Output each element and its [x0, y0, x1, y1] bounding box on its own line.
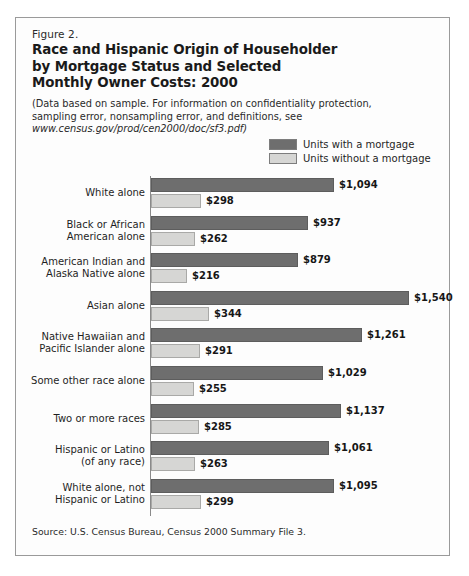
- chart-bar: [151, 178, 334, 192]
- chart-bar: [151, 328, 362, 342]
- figure-container: Figure 2. Race and Hispanic Origin of Ho…: [15, 17, 450, 556]
- chart-bar: [151, 291, 409, 305]
- chart-bar-value-label: $1,261: [367, 328, 406, 342]
- figure-number: Figure 2.: [32, 28, 78, 40]
- chart-bar: [151, 194, 201, 208]
- chart-bar-value-label: $1,095: [339, 479, 378, 493]
- chart-category-label: Black or AfricanAmerican alone: [0, 219, 145, 243]
- chart-category-label: Hispanic or Latino(of any race): [0, 444, 145, 468]
- chart-bar-value-label: $1,137: [346, 404, 385, 418]
- chart-bar-value-label: $216: [192, 269, 220, 283]
- chart-bar-value-label: $344: [214, 307, 242, 321]
- chart-bar: [151, 216, 308, 230]
- chart-category-group: Native Hawaiian andPacific Islander alon…: [16, 328, 449, 366]
- figure-title: Race and Hispanic Origin of Householder …: [32, 42, 432, 92]
- chart-bar: [151, 441, 329, 455]
- chart-category-group: Black or AfricanAmerican alone$937$262: [16, 216, 449, 254]
- chart-bar: [151, 457, 195, 471]
- chart-category-label: White alone: [0, 187, 145, 199]
- figure-note-line-2: sampling error, nonsampling error, and d…: [32, 111, 302, 122]
- legend-swatch-icon: [269, 153, 297, 164]
- chart-category-group: White alone, notHispanic or Latino$1,095…: [16, 479, 449, 517]
- chart-bar-value-label: $298: [206, 194, 234, 208]
- chart-bar-value-label: $1,094: [339, 178, 378, 192]
- legend-item-label: Units with a mortgage: [303, 139, 414, 150]
- figure-note: (Data based on sample. For information o…: [32, 98, 372, 136]
- chart-bar-value-label: $879: [303, 253, 331, 267]
- chart-bar: [151, 382, 194, 396]
- figure-note-url: www.census.gov/prod/cen2000/doc/sf3.pdf): [32, 123, 247, 134]
- chart-bar: [151, 269, 187, 283]
- chart-category-group: White alone$1,094$298: [16, 178, 449, 216]
- chart-bar: [151, 307, 209, 321]
- legend-swatch-icon: [269, 139, 297, 150]
- chart-category-group: Two or more races$1,137$285: [16, 404, 449, 442]
- figure-title-line-2: by Mortgage Status and Selected: [32, 59, 281, 74]
- chart-bar: [151, 232, 195, 246]
- figure-source: Source: U.S. Census Bureau, Census 2000 …: [32, 526, 306, 537]
- chart-legend: Units with a mortgageUnits without a mor…: [269, 138, 449, 166]
- chart-bar: [151, 420, 199, 434]
- chart-bar-value-label: $1,540: [414, 291, 453, 305]
- chart-bar-value-label: $1,029: [328, 366, 367, 380]
- figure-title-line-3: Monthly Owner Costs: 2000: [32, 75, 238, 90]
- chart-category-group: Some other race alone$1,029$255: [16, 366, 449, 404]
- chart-bar-value-label: $255: [199, 382, 227, 396]
- chart-category-group: American Indian andAlaska Native alone$8…: [16, 253, 449, 291]
- chart-category-group: Asian alone$1,540$344: [16, 291, 449, 329]
- chart-bar-value-label: $263: [200, 457, 228, 471]
- chart-bar-value-label: $285: [204, 420, 232, 434]
- chart-category-label: Two or more races: [0, 413, 145, 425]
- chart-category-label: Asian alone: [0, 300, 145, 312]
- legend-item-label: Units without a mortgage: [303, 153, 431, 164]
- chart-bar: [151, 479, 334, 493]
- figure-note-line-1: (Data based on sample. For information o…: [32, 98, 372, 109]
- chart-bar-value-label: $1,061: [334, 441, 373, 455]
- chart-category-label: Some other race alone: [0, 375, 145, 387]
- figure-title-line-1: Race and Hispanic Origin of Householder: [32, 42, 337, 57]
- chart-bar: [151, 344, 200, 358]
- chart-bar-value-label: $291: [205, 344, 233, 358]
- chart-category-label: White alone, notHispanic or Latino: [0, 482, 145, 506]
- chart-category-label: American Indian andAlaska Native alone: [0, 256, 145, 280]
- chart-bar: [151, 253, 298, 267]
- legend-item: Units with a mortgage: [269, 138, 449, 151]
- chart-bar: [151, 404, 341, 418]
- chart-bar-value-label: $299: [206, 495, 234, 509]
- chart-category-group: Hispanic or Latino(of any race)$1,061$26…: [16, 441, 449, 479]
- chart-category-label: Native Hawaiian andPacific Islander alon…: [0, 331, 145, 355]
- chart-bar-value-label: $262: [200, 232, 228, 246]
- chart-bar-value-label: $937: [313, 216, 341, 230]
- chart-bar: [151, 366, 323, 380]
- legend-item: Units without a mortgage: [269, 152, 449, 165]
- chart-bar: [151, 495, 201, 509]
- chart-plot-area: White alone$1,094$298Black or AfricanAme…: [16, 176, 449, 516]
